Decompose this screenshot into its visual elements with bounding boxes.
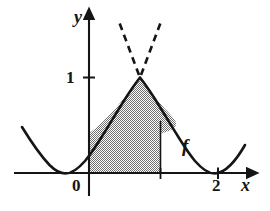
dashed-tangent-right: [141, 19, 162, 75]
y-tick-label-one: 1: [66, 69, 75, 86]
origin-label: 0: [72, 177, 81, 194]
shaded-area-region: [89, 78, 176, 174]
x-tick-label-two: 2: [212, 177, 221, 194]
calculus-figure: y x 1 0 2 f: [0, 0, 270, 211]
y-axis-label: y: [74, 8, 82, 26]
graph-canvas: [0, 0, 270, 211]
curve-label-f: f: [182, 136, 188, 155]
x-axis-label: x: [241, 176, 250, 194]
dashed-tangent-left: [118, 19, 139, 75]
